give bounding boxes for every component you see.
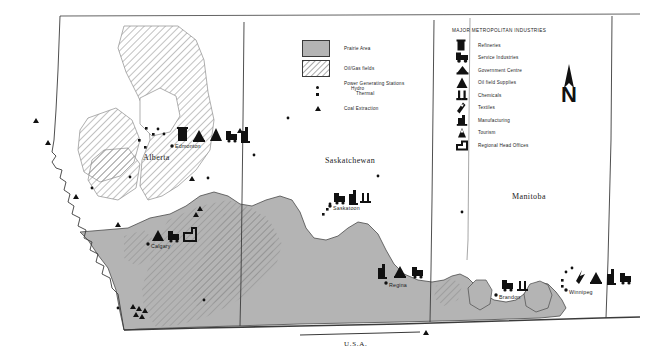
government-centre-icon — [452, 65, 478, 75]
oil-field-supplies-icon — [452, 77, 478, 89]
legend-row-oil-field-supplies: Oil field Supplies — [452, 77, 546, 90]
legend-row-textiles: Textiles — [452, 102, 546, 115]
legend-label-prairie-area: Prairie Area — [344, 46, 371, 51]
city-label-edmonton: Edmonton — [175, 143, 201, 149]
power-station-symbols — [302, 81, 344, 100]
oilgas-swatch-cell — [302, 60, 344, 77]
prairie-swatch-cell — [302, 40, 344, 57]
usa-label: U.S.A. — [344, 340, 367, 348]
legend-row-prairie-area: Prairie Area — [302, 40, 404, 57]
city-label-brandon: Brandon — [499, 294, 520, 300]
legend-row-refineries: Refineries — [452, 39, 546, 52]
coal-extraction-symbol — [315, 106, 321, 111]
regional-head-offices-icon — [452, 139, 478, 151]
legend-row-tourism: Tourism — [452, 127, 546, 140]
legend-label-oil-gas: Oil/Gas fields — [344, 66, 374, 71]
chemicals-icon — [452, 90, 478, 101]
legend-label-service-industries: Service Industries — [478, 55, 518, 60]
legend-industries-title: MAJOR METROPOLITAN INDUSTRIES — [452, 28, 546, 33]
legend-label-tourism: Tourism — [478, 130, 496, 135]
legend-label-manufacturing: Manufacturing — [478, 118, 510, 123]
manufacturing-icon — [452, 114, 478, 126]
coal-symbol-cell — [302, 106, 344, 111]
city-point-dots — [146, 144, 567, 296]
brandon-industry-cluster — [502, 280, 528, 292]
oil-gas-fields-swatch — [302, 60, 330, 77]
legend-industries: MAJOR METROPOLITAN INDUSTRIES Refineries — [452, 28, 546, 152]
north-arrow: N — [558, 62, 592, 114]
legend-label-chemicals: Chemicals — [478, 93, 501, 98]
legend-symbols: Prairie Area Oil/Gas fields Power Genera… — [302, 40, 404, 111]
legend-label-refineries: Refineries — [478, 43, 501, 48]
city-label-calgary: Calgary — [151, 243, 171, 249]
prairie-area-swatch — [302, 40, 330, 57]
edmonton-industry-cluster — [177, 127, 250, 143]
legend-row-service-industries: Service Industries — [452, 52, 546, 65]
legend-row-coal: Coal Extraction — [302, 106, 404, 111]
city-label-winnipeg: Winnipeg — [569, 289, 593, 295]
winnipeg-industry-cluster — [576, 269, 631, 285]
hydro-station-symbol — [316, 86, 319, 89]
north-arrow-label: N — [561, 84, 577, 106]
saskatoon-industry-cluster — [334, 190, 371, 205]
legend-row-power-stations: Power Generating Stations Hydro Thermal — [302, 81, 404, 100]
calgary-industry-cluster — [152, 228, 196, 243]
prairie-industries-map: Alberta Saskatchewan Manitoba Edmonton C… — [0, 0, 648, 357]
city-label-saskatoon: Saskatoon — [333, 205, 360, 211]
legend-row-oil-gas: Oil/Gas fields — [302, 60, 404, 77]
tourism-icon — [452, 127, 478, 139]
legend-label-oil-field-supplies: Oil field Supplies — [478, 80, 516, 85]
refineries-icon — [452, 39, 478, 51]
thermal-station-symbol — [316, 93, 319, 96]
legend-label-coal: Coal Extraction — [344, 106, 378, 111]
legend-label-textiles: Textiles — [478, 105, 495, 110]
legend-row-regional-head-offices: Regional Head Offices — [452, 139, 546, 152]
regina-industry-cluster — [378, 264, 423, 279]
city-label-regina: Regina — [389, 282, 407, 288]
legend-row-chemicals: Chemicals — [452, 89, 546, 102]
service-industries-icon — [452, 52, 478, 63]
province-label-saskatchewan: Saskatchewan — [325, 156, 375, 165]
legend-label-government-centre: Government Centre — [478, 68, 522, 73]
legend-label-thermal: Thermal — [356, 91, 404, 96]
legend-label-regional-head-offices: Regional Head Offices — [478, 143, 529, 148]
province-label-alberta: Alberta — [143, 153, 170, 162]
legend-row-government-centre: Government Centre — [452, 64, 546, 77]
power-station-labels: Power Generating Stations Hydro Thermal — [344, 81, 404, 96]
textiles-icon — [452, 102, 478, 114]
province-label-manitoba: Manitoba — [512, 192, 546, 201]
legend-row-manufacturing: Manufacturing — [452, 114, 546, 127]
